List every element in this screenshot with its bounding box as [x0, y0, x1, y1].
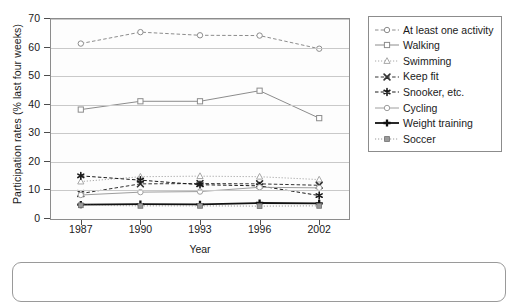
gridline	[51, 76, 349, 77]
x-tick-label: 2002	[289, 224, 349, 235]
gridline	[51, 105, 349, 106]
gridline	[51, 162, 349, 163]
legend-item-label: Swimming	[400, 56, 451, 67]
legend-marker-triangle-open-icon	[374, 54, 400, 68]
legend-item[interactable]: Swimming	[374, 53, 497, 69]
legend-marker-circle-open-icon	[374, 101, 400, 115]
legend-item[interactable]: Snooker, etc.	[374, 84, 497, 100]
legend-item-label: Snooker, etc.	[400, 87, 464, 98]
legend-item-label: Cycling	[400, 103, 437, 114]
x-tick-mark	[260, 220, 261, 225]
y-tick-label: 20	[0, 156, 40, 167]
y-tick-label: 50	[0, 70, 40, 81]
y-tick-label: 30	[0, 127, 40, 138]
y-tick-label: 10	[0, 184, 40, 195]
legend-marker-x-icon	[374, 70, 400, 84]
x-tick-label: 1990	[110, 224, 170, 235]
legend-marker-square-filled-icon	[374, 132, 400, 146]
legend-item-label: Keep fit	[400, 71, 439, 82]
legend-marker-plus-icon	[374, 116, 400, 130]
gridline	[51, 190, 349, 191]
legend-item[interactable]: Walking	[374, 38, 497, 54]
caption-frame	[12, 262, 506, 302]
legend-item-label: Walking	[400, 40, 440, 51]
x-tick-label: 1987	[51, 224, 111, 235]
chart-legend: At least one activityWalkingSwimmingKeep…	[368, 16, 502, 152]
gridline	[51, 133, 349, 134]
gridline	[51, 19, 349, 20]
x-axis-title: Year	[50, 243, 350, 255]
legend-item-label: Weight training	[400, 118, 473, 129]
x-tick-label: 1996	[230, 224, 290, 235]
legend-marker-circle-open-icon	[374, 23, 400, 37]
x-tick-mark	[140, 220, 141, 225]
legend-item-label: At least one activity	[400, 25, 493, 36]
legend-marker-asterisk-icon	[374, 85, 400, 99]
legend-marker-square-open-icon	[374, 38, 400, 52]
legend-item[interactable]: Keep fit	[374, 69, 497, 85]
y-tick-label: 40	[0, 99, 40, 110]
x-tick-mark	[81, 220, 82, 225]
legend-item[interactable]: Weight training	[374, 116, 497, 132]
y-tick-label: 70	[0, 13, 40, 24]
series-layer	[51, 19, 349, 219]
legend-item[interactable]: At least one activity	[374, 22, 497, 38]
y-tick-label: 0	[0, 213, 40, 224]
y-tick-label: 60	[0, 42, 40, 53]
x-tick-mark	[200, 220, 201, 225]
legend-item[interactable]: Soccer	[374, 131, 497, 147]
legend-item-label: Soccer	[400, 134, 436, 145]
plot-area	[50, 18, 350, 220]
x-tick-label: 1993	[170, 224, 230, 235]
x-tick-mark	[319, 220, 320, 225]
gridline	[51, 48, 349, 49]
legend-item[interactable]: Cycling	[374, 100, 497, 116]
